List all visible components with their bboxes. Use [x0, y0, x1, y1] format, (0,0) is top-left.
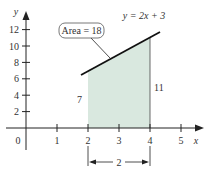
- y-tick-label-8: 8: [14, 57, 19, 68]
- y-tick-label-4: 4: [14, 90, 19, 101]
- left-height-label: 7: [77, 94, 82, 105]
- equation-label: y = 2x + 3: [122, 10, 165, 21]
- x-tick-label-4: 4: [148, 135, 153, 146]
- arrow-left-icon: [89, 160, 96, 165]
- y-axis-arrow-icon: [23, 11, 30, 20]
- chart: 0 1 2 3 4 5 x 2 4 6 8 10 12 y y = 2x + 3…: [0, 0, 208, 172]
- x-axis-label: x: [193, 135, 199, 146]
- y-tick-label-6: 6: [14, 73, 19, 84]
- arrow-right-icon: [142, 160, 149, 165]
- x-tick-label-2: 2: [86, 135, 91, 146]
- y-tick-label-12: 12: [9, 24, 19, 35]
- area-leader-line: [91, 38, 110, 58]
- y-tick-label-2: 2: [14, 106, 19, 117]
- area-label: Area = 18: [61, 25, 101, 36]
- y-axis-label: y: [13, 6, 19, 17]
- y-tick-label-10: 10: [9, 41, 19, 52]
- x-axis-arrow-icon: [195, 125, 204, 132]
- x-tick-label-0: 0: [16, 135, 21, 146]
- width-label: 2: [117, 157, 122, 168]
- right-height-label: 11: [154, 82, 164, 93]
- x-tick-label-5: 5: [179, 135, 184, 146]
- x-tick-label-3: 3: [117, 135, 122, 146]
- shaded-area: [88, 38, 150, 128]
- x-tick-label-1: 1: [55, 135, 60, 146]
